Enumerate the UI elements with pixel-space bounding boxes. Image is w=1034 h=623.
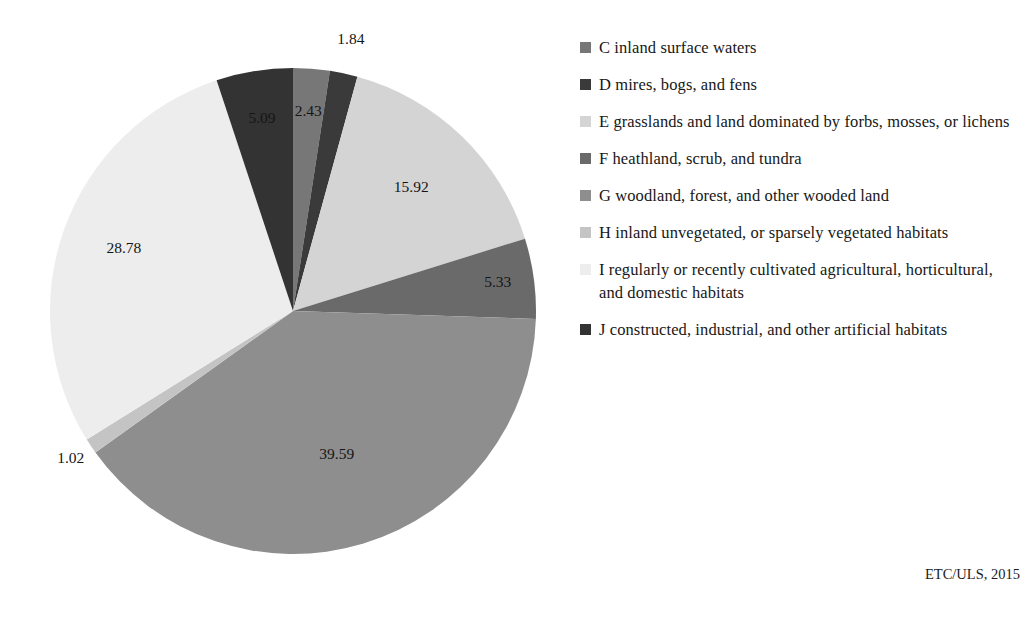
legend-item-label: D mires, bogs, and fens — [599, 73, 757, 96]
legend-swatch-icon — [580, 264, 591, 275]
legend-item-label: J constructed, industrial, and other art… — [599, 318, 947, 341]
legend-item-e[interactable]: E grasslands and land dominated by forbs… — [580, 110, 1020, 133]
legend-item-label: I regularly or recently cultivated agric… — [599, 258, 1020, 304]
pie-slices-group — [50, 68, 536, 554]
pie-chart-plot-area: 2.431.8415.925.3339.591.0228.785.09 — [0, 0, 570, 623]
legend-item-label: G woodland, forest, and other wooded lan… — [599, 184, 889, 207]
pie-slice-value-label: 5.09 — [248, 109, 275, 126]
pie-slice-value-label: 1.02 — [57, 449, 84, 466]
pie-slice-value-label: 5.33 — [484, 273, 511, 290]
legend-item-f[interactable]: F heathland, scrub, and tundra — [580, 147, 1020, 170]
legend-swatch-icon — [580, 79, 591, 90]
pie-slice-value-label: 1.84 — [337, 30, 364, 47]
legend-item-h[interactable]: H inland unvegetated, or sparsely vegeta… — [580, 221, 1020, 244]
legend-item-label: H inland unvegetated, or sparsely vegeta… — [599, 221, 948, 244]
pie-slice-value-label: 28.78 — [106, 239, 141, 256]
legend-swatch-icon — [580, 116, 591, 127]
chart-credit: ETC/ULS, 2015 — [580, 566, 1020, 583]
legend-swatch-icon — [580, 42, 591, 53]
pie-chart-svg: 2.431.8415.925.3339.591.0228.785.09 — [0, 0, 570, 623]
legend-item-c[interactable]: C inland surface waters — [580, 36, 1020, 59]
legend-item-label: C inland surface waters — [599, 36, 757, 59]
legend-item-label: F heathland, scrub, and tundra — [599, 147, 802, 170]
legend-swatch-icon — [580, 324, 591, 335]
legend-item-i[interactable]: I regularly or recently cultivated agric… — [580, 258, 1020, 304]
legend-swatch-icon — [580, 153, 591, 164]
legend-swatch-icon — [580, 190, 591, 201]
pie-slice-value-label: 39.59 — [319, 445, 354, 462]
legend-item-g[interactable]: G woodland, forest, and other wooded lan… — [580, 184, 1020, 207]
pie-slice-value-label: 15.92 — [394, 178, 429, 195]
pie-chart-figure: 2.431.8415.925.3339.591.0228.785.09 C in… — [0, 0, 1034, 623]
legend-item-j[interactable]: J constructed, industrial, and other art… — [580, 318, 1020, 341]
legend-swatch-icon — [580, 227, 591, 238]
legend-item-d[interactable]: D mires, bogs, and fens — [580, 73, 1020, 96]
legend-item-label: E grasslands and land dominated by forbs… — [599, 110, 1010, 133]
chart-legend: C inland surface watersD mires, bogs, an… — [580, 36, 1020, 355]
pie-slice-value-label: 2.43 — [295, 102, 322, 119]
